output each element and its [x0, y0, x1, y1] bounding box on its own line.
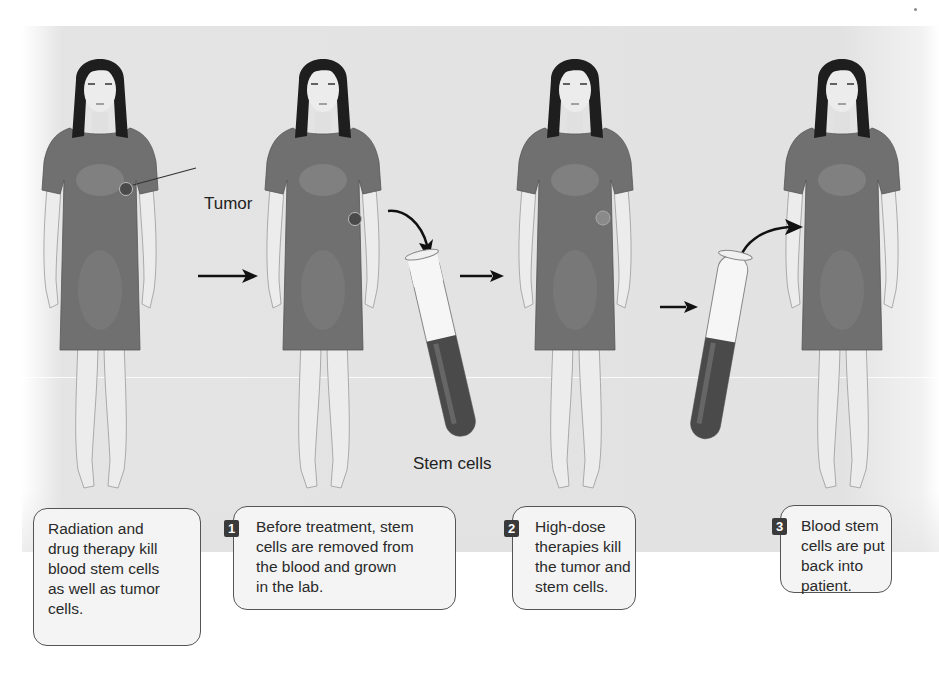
caption-line: Before treatment, stem	[256, 517, 443, 537]
patient-figure-1	[20, 40, 180, 500]
patient-illustration	[495, 40, 655, 500]
tumor-dot	[349, 213, 362, 226]
caption-line: stem cells.	[535, 577, 623, 597]
caption-line: the blood and grown	[256, 557, 443, 577]
test-tube-icon	[680, 248, 760, 448]
caption-line: the tumor and	[535, 557, 623, 577]
patient-illustration	[20, 40, 180, 500]
caption-box-step-3: 3 Blood stem cells are put back into pat…	[780, 505, 892, 593]
right-arrow-icon	[198, 268, 260, 284]
caption-line: High-dose	[535, 517, 623, 537]
patient-illustration	[243, 40, 403, 500]
caption-line: drug therapy kill	[48, 539, 188, 559]
caption-line: as well as tumor	[48, 579, 188, 599]
tumor-dot	[120, 183, 133, 196]
step-number-badge: 3	[772, 518, 787, 535]
patient-figure-2	[243, 40, 403, 500]
caption-line: Radiation and	[48, 519, 188, 539]
caption-box-radiation: Radiation and drug therapy kill blood st…	[33, 508, 201, 646]
tumor-label: Tumor	[204, 194, 253, 214]
faded-tumor-dot	[596, 211, 610, 225]
patient-figure-4	[762, 40, 922, 500]
caption-line: cells.	[48, 599, 188, 619]
stem-cells-label: Stem cells	[413, 454, 491, 474]
caption-line: Blood stem	[801, 516, 879, 536]
caption-line: blood stem cells	[48, 559, 188, 579]
caption-line: patient.	[801, 576, 879, 596]
caption-line: therapies kill	[535, 537, 623, 557]
corner-mark	[914, 8, 917, 11]
step-number-badge: 1	[224, 520, 239, 537]
caption-box-step-1: 1 Before treatment, stem cells are remov…	[233, 506, 456, 610]
caption-line: cells are removed from	[256, 537, 443, 557]
caption-line: cells are put	[801, 536, 879, 556]
step-number-badge: 2	[504, 520, 519, 537]
caption-line: in the lab.	[256, 577, 443, 597]
caption-box-step-2: 2 High-dose therapies kill the tumor and…	[512, 506, 636, 610]
test-tube-icon	[404, 246, 484, 446]
caption-line: back into	[801, 556, 879, 576]
patient-figure-3	[495, 40, 655, 500]
patient-illustration	[762, 40, 922, 500]
